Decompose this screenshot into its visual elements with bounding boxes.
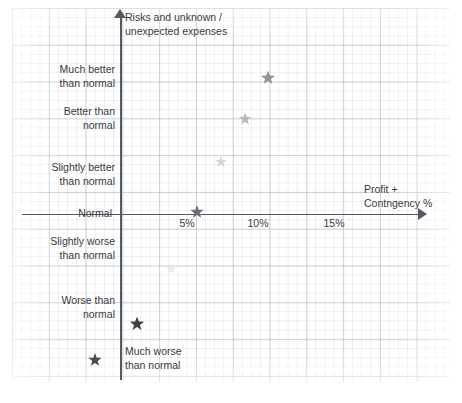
data-point-star-7[interactable] xyxy=(88,353,102,367)
data-point-star-6[interactable] xyxy=(129,316,144,331)
data-point-star-2[interactable] xyxy=(239,112,252,125)
y-label-worse: Worse than normal xyxy=(10,294,115,321)
y-label-slightly-better: Slightly better than normal xyxy=(10,161,115,188)
x-axis-title: Profit + Contngency % xyxy=(364,183,432,210)
y-axis-title: Risks and unknown / unexpected expenses xyxy=(125,11,227,38)
y-label-slightly-worse: Slightly worse than normal xyxy=(10,235,115,262)
y-label-better: Better than normal xyxy=(10,105,115,132)
data-point-star-4[interactable] xyxy=(190,205,204,219)
y-label-normal: Normal xyxy=(20,207,112,221)
x-tick-10: 10% xyxy=(247,217,268,229)
y-label-much-better: Much better than normal xyxy=(10,63,115,90)
y-axis-line xyxy=(120,14,122,380)
y-label-much-worse: Much worse than normal xyxy=(125,345,230,372)
data-point-star-3[interactable] xyxy=(215,156,227,168)
data-point-star-1[interactable] xyxy=(261,70,276,85)
x-tick-15: 15% xyxy=(323,217,344,229)
data-point-star-5[interactable] xyxy=(165,263,177,275)
scatter-chart: Risks and unknown / unexpected expenses … xyxy=(0,0,462,403)
